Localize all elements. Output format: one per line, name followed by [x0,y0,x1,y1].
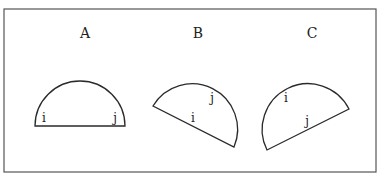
panel-c-title: C [307,25,318,41]
panel-a-title: A [79,25,91,41]
point-j-a: j [111,111,117,125]
point-i-a: i [42,111,46,125]
point-j-b: j [208,91,214,105]
point-i-b: i [191,111,195,125]
panel-b-title: B [193,25,203,41]
panel-c: C i j [262,25,349,150]
semicircle-b [153,84,238,147]
point-i-c: i [284,91,288,105]
semicircle-a [35,81,125,126]
panel-b: B i j [153,25,238,147]
point-j-c: j [303,114,309,128]
diagram-canvas: A i j B i j C i j [0,0,381,178]
diagram-frame [4,9,376,172]
panel-a: A i j [35,25,125,126]
